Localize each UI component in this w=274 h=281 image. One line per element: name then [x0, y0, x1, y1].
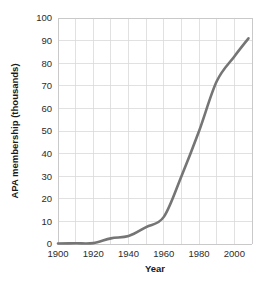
y-tick-label: 70 [41, 80, 52, 91]
y-tick-label: 50 [41, 125, 52, 136]
horizontal-gridlines [58, 18, 252, 244]
y-tick-label: 60 [41, 103, 52, 114]
y-tick-label: 80 [41, 58, 52, 69]
y-tick-label: 90 [41, 35, 52, 46]
line-chart: 0102030405060708090100 19001920194019601… [0, 0, 274, 281]
y-axis-title: APA membership (thousands) [9, 63, 20, 198]
x-tick-label: 1940 [118, 248, 139, 259]
y-tick-label: 10 [41, 216, 52, 227]
x-axis-title: Year [145, 263, 165, 274]
y-tick-label: 40 [41, 148, 52, 159]
x-tick-label: 1920 [83, 248, 104, 259]
x-tick-label: 1960 [153, 248, 174, 259]
y-tick-label: 100 [36, 12, 52, 23]
x-tick-label: 1900 [47, 248, 68, 259]
y-tick-label: 30 [41, 171, 52, 182]
y-axis-tick-labels: 0102030405060708090100 [36, 12, 52, 249]
chart-page: 0102030405060708090100 19001920194019601… [0, 0, 274, 281]
x-tick-label: 2000 [224, 248, 245, 259]
x-tick-label: 1980 [189, 248, 210, 259]
x-axis-tick-labels: 190019201940196019802000 [47, 248, 245, 259]
y-tick-label: 20 [41, 193, 52, 204]
data-series-line [58, 38, 248, 243]
